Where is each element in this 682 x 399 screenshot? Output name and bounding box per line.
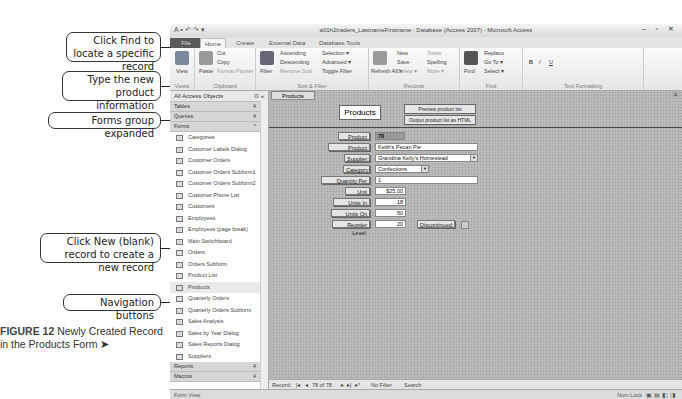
nav-form-item[interactable]: Customer Orders Subform2: [170, 178, 268, 190]
nav-group-forms[interactable]: Forms^: [170, 122, 268, 132]
nav-pane-header[interactable]: All Access Objects⊙ «: [170, 91, 268, 102]
close-icon[interactable]: ✕: [673, 91, 678, 98]
next-record-button[interactable]: ▸: [341, 382, 344, 388]
nav-group-macros[interactable]: Macros¥: [170, 372, 268, 382]
form-icon: [176, 354, 183, 360]
nav-group-queries[interactable]: Queries¥: [170, 112, 268, 122]
nav-form-item[interactable]: Customers: [170, 201, 268, 213]
paste-button[interactable]: Paste: [199, 68, 213, 74]
nav-form-item[interactable]: Customer Phone List: [170, 190, 268, 202]
last-record-button[interactable]: ▸|: [347, 382, 351, 388]
ascending-button[interactable]: Ascending: [280, 50, 306, 56]
chevron-down-icon[interactable]: ▼: [470, 155, 477, 161]
remove-sort-button[interactable]: Remove Sort: [280, 68, 312, 74]
label-unit-price: Unit Price:: [345, 187, 370, 195]
form-icon: [176, 342, 183, 348]
output-html-button[interactable]: Output product list as HTML: [404, 115, 476, 125]
goto-button[interactable]: Go To ▾: [484, 59, 503, 65]
nav-form-item[interactable]: Customer Orders Subform1: [170, 167, 268, 179]
previous-record-button[interactable]: ◂: [305, 382, 308, 388]
copy-button[interactable]: Copy: [217, 59, 230, 65]
selection-button[interactable]: Selection ▾: [322, 50, 349, 56]
nav-form-item[interactable]: Customer Orders: [170, 155, 268, 167]
nav-group-tables[interactable]: Tables¥: [170, 102, 268, 112]
callout-forms-expanded: Forms group expanded: [48, 112, 161, 129]
nav-form-item[interactable]: Sales Reports Dialog: [170, 339, 268, 351]
new-blank-record-button[interactable]: ▸*: [355, 382, 360, 388]
access-window: A ▪ ↶ ↷ ▾ a01h2traders_LastnameFirstname…: [170, 24, 682, 399]
nav-form-item[interactable]: Employees: [170, 213, 268, 225]
more-button[interactable]: More ▾: [427, 68, 444, 74]
group-records: Refresh All ▾ New Save Delete ▾ Totals S…: [369, 48, 460, 90]
search-box[interactable]: Search: [404, 382, 421, 388]
nav-form-item[interactable]: Products: [170, 282, 268, 294]
form-icon: [176, 319, 183, 325]
form-icon: [176, 216, 183, 222]
unit-price-field[interactable]: $25.00: [375, 187, 406, 195]
form-icon: [176, 158, 183, 164]
units-on-order-field[interactable]: 50: [375, 209, 406, 217]
chevron-down-icon[interactable]: ▼: [421, 166, 428, 172]
nav-form-label: Sales Analysis: [188, 318, 223, 324]
shutter-bar-icon[interactable]: ⊙ «: [254, 91, 264, 101]
form-icon: [176, 181, 183, 187]
bold-button[interactable]: B: [529, 59, 533, 65]
nav-form-item[interactable]: Customer Labels Dialog: [170, 144, 268, 156]
nav-form-item[interactable]: Orders: [170, 247, 268, 259]
nav-form-item[interactable]: Orders Subform: [170, 259, 268, 271]
underline-button[interactable]: U: [549, 59, 553, 65]
window-controls[interactable]: – ▫ ✕: [642, 25, 678, 33]
spelling-button[interactable]: Spelling: [427, 59, 447, 65]
save-record-button[interactable]: Save: [397, 59, 410, 65]
preview-product-list-button[interactable]: Preview product list: [404, 104, 476, 114]
figure-caption: FIGURE 12 Newly Created Record in the Pr…: [0, 325, 165, 351]
nav-form-item[interactable]: Employees (page break): [170, 224, 268, 236]
first-record-button[interactable]: |◂: [296, 382, 300, 388]
nav-form-item[interactable]: Quarterly Orders Subform: [170, 305, 268, 317]
group-sort-filter: Filter Ascending Descending Remove Sort …: [256, 48, 369, 90]
product-name-field[interactable]: Keith's Pecan Pie: [375, 143, 478, 151]
tab-file[interactable]: File: [170, 38, 202, 48]
category-select[interactable]: Confections▼: [375, 165, 429, 173]
discontinued-checkbox[interactable]: [461, 221, 469, 229]
nav-form-item[interactable]: Sales Analysis: [170, 316, 268, 328]
nav-form-item[interactable]: Main Switchboard: [170, 236, 268, 248]
delete-record-button[interactable]: Delete ▾: [397, 68, 417, 74]
tab-external-data[interactable]: External Data: [265, 38, 309, 48]
toggle-filter-button[interactable]: Toggle Filter: [322, 68, 352, 74]
nav-form-item[interactable]: Product List: [170, 270, 268, 282]
units-in-stock-field[interactable]: 18: [375, 198, 406, 206]
totals-button[interactable]: Totals: [427, 50, 441, 56]
current-record-field[interactable]: 78 of 78: [312, 382, 332, 388]
view-button[interactable]: View: [176, 68, 188, 74]
format-painter-button[interactable]: Format Painter: [217, 68, 253, 74]
filter-button[interactable]: Filter: [260, 68, 272, 74]
nav-form-item[interactable]: Sales by Year Dialog: [170, 328, 268, 340]
tab-products[interactable]: Products: [271, 91, 315, 100]
quantity-per-unit-field[interactable]: 1: [375, 176, 478, 184]
tab-create[interactable]: Create: [232, 38, 258, 48]
view-switcher-icons[interactable]: ▣▤◧◨: [646, 392, 678, 398]
nav-group-reports[interactable]: Reports¥: [170, 362, 268, 372]
nav-form-label: Quarterly Orders Subform: [188, 307, 251, 313]
nav-form-label: Customer Orders: [188, 157, 230, 163]
supplier-select[interactable]: Grandma Kelly's Homestead▼: [375, 154, 478, 162]
nav-form-item[interactable]: Categories: [170, 132, 268, 144]
nav-form-item[interactable]: Suppliers: [170, 351, 268, 363]
select-button[interactable]: Select ▾: [484, 68, 504, 74]
no-filter-indicator[interactable]: No Filter: [371, 382, 392, 388]
new-record-button[interactable]: New: [397, 50, 408, 56]
descending-button[interactable]: Descending: [280, 59, 309, 65]
cut-button[interactable]: Cut: [217, 50, 226, 56]
tab-database-tools[interactable]: Database Tools: [315, 38, 364, 48]
reorder-level-field[interactable]: 20: [375, 220, 406, 228]
nav-scrollbar[interactable]: [260, 101, 268, 389]
find-button[interactable]: Find: [464, 68, 475, 74]
advanced-button[interactable]: Advanced ▾: [322, 59, 351, 65]
form-icon: [176, 147, 183, 153]
italic-button[interactable]: I: [539, 59, 541, 65]
replace-button[interactable]: Replace: [484, 50, 504, 56]
form-icon: [176, 308, 183, 314]
view-icon: [175, 51, 189, 65]
nav-form-item[interactable]: Quarterly Orders: [170, 293, 268, 305]
